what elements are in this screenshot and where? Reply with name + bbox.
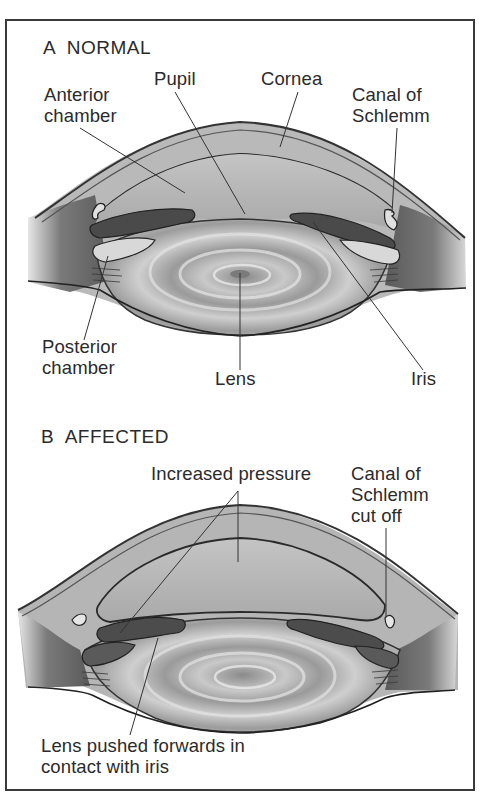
label-canal-of-schlemm: Canal of Schlemm <box>352 84 430 126</box>
label-lens-pushed-forwards: Lens pushed forwards in contact with iri… <box>41 735 245 777</box>
label-iris: Iris <box>411 368 436 389</box>
panel-b-heading: B AFFECTED <box>41 426 169 447</box>
label-increased-pressure: Increased pressure <box>151 463 311 484</box>
label-canal-cut-off: Canal of Schlemm cut off <box>351 463 429 526</box>
label-lens: Lens <box>215 368 256 389</box>
label-anterior-chamber: Anterior chamber <box>44 84 117 126</box>
label-pupil: Pupil <box>154 68 196 89</box>
panel-b-illustration <box>18 491 458 735</box>
panel-a-illustration <box>28 92 466 370</box>
label-cornea: Cornea <box>261 68 322 89</box>
label-posterior-chamber: Posterior chamber <box>42 336 117 378</box>
panel-a-heading: A NORMAL <box>43 37 151 58</box>
